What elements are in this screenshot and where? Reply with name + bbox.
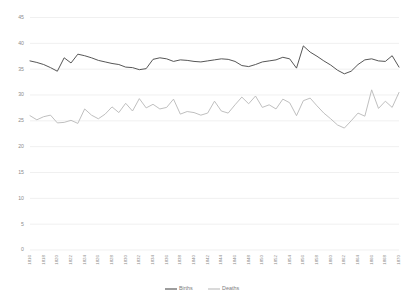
x-axis-tick-labels: 1816181818201822182418261828183018321834… [27,254,401,264]
x-axis-tick-label: 1828 [109,254,114,264]
x-axis-tick-label: 1852 [273,254,278,264]
y-axis-tick-label: 15 [18,169,24,175]
series-line-births [30,46,399,74]
x-axis-tick-label: 1866 [369,254,374,264]
x-axis-tick-label: 1868 [382,254,387,264]
x-axis-tick-label: 1818 [41,254,46,264]
y-axis-tick-label: 10 [18,195,24,201]
x-axis-tick-label: 1822 [68,254,73,264]
y-axis-tick-label: 45 [18,14,24,20]
x-axis-tick-label: 1870 [396,254,401,264]
x-axis-tick-label: 1844 [218,254,223,264]
y-axis-tick-label: 0 [21,246,24,252]
x-axis-tick-label: 1854 [287,254,292,264]
x-axis-tick-label: 1850 [259,254,264,264]
chart-legend: BirthsDeaths [165,285,239,291]
x-axis-tick-label: 1832 [136,254,141,264]
x-axis-tick-label: 1824 [82,254,87,264]
x-axis-tick-label: 1840 [191,254,196,264]
y-axis-tick-labels: 051015202530354045 [18,14,24,253]
chart-canvas: 051015202530354045 181618181820182218241… [0,0,405,302]
x-axis-tick-label: 1842 [205,254,210,264]
x-axis-tick-label: 1846 [232,254,237,264]
y-axis-tick-label: 30 [18,91,24,97]
x-axis-tick-label: 1864 [355,254,360,264]
x-axis-tick-label: 1830 [123,254,128,264]
legend-label-births: Births [179,285,193,291]
line-chart: 051015202530354045 181618181820182218241… [0,0,405,302]
x-axis-tick-label: 1848 [246,254,251,264]
series-line-deaths [30,90,399,128]
x-axis-tick-label: 1820 [54,254,59,264]
x-axis-tick-label: 1826 [95,254,100,264]
y-axis-tick-label: 35 [18,66,24,72]
x-axis-tick-label: 1836 [164,254,169,264]
x-axis-tick-label: 1838 [177,254,182,264]
x-axis-tick-label: 1834 [150,254,155,264]
gridlines [30,18,399,251]
x-axis-tick-label: 1816 [27,254,32,264]
x-axis-tick-label: 1858 [314,254,319,264]
x-axis-tick-label: 1856 [300,254,305,264]
x-axis-tick-label: 1862 [341,254,346,264]
x-axis-tick-label: 1860 [328,254,333,264]
y-axis-tick-label: 40 [18,40,24,46]
data-series-group [30,46,399,128]
legend-label-deaths: Deaths [222,285,239,291]
y-axis-tick-label: 5 [21,221,24,227]
y-axis-tick-label: 20 [18,143,24,149]
y-axis-tick-label: 25 [18,117,24,123]
